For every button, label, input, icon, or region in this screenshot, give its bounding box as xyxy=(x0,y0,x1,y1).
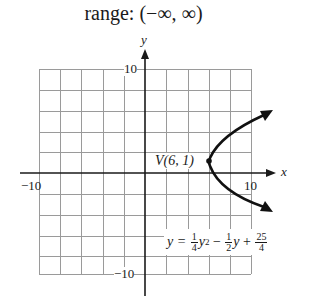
y-axis-label: y xyxy=(141,33,147,47)
parabola-curve xyxy=(209,115,264,207)
vertex-point xyxy=(206,158,212,164)
vertex-label: V(6, 1) xyxy=(153,153,196,169)
y-axis-arrow-icon xyxy=(141,49,149,59)
x-max-label: 10 xyxy=(244,179,257,193)
equation-label: y = 14 y2 − 12 y + 254 xyxy=(164,229,271,255)
y-max-label: 10 xyxy=(124,62,137,76)
x-min-label: −10 xyxy=(21,179,41,193)
x-axis-label: x xyxy=(281,165,287,179)
axes xyxy=(20,56,270,296)
x-axis-arrow-icon xyxy=(266,169,276,177)
y-min-label: −10 xyxy=(114,267,134,281)
